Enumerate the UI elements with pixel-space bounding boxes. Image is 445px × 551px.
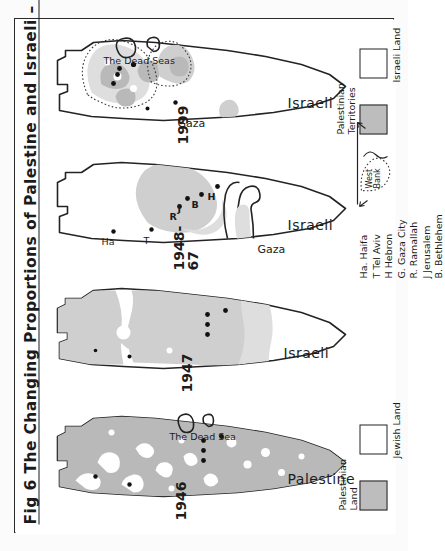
city-key-entry-hebron: H Hebron	[382, 214, 395, 278]
legend-label-palestinian-land: Palestinian Land	[337, 440, 358, 510]
dead-sea-label-1999: The Dead Seas	[103, 54, 174, 65]
city-key-entry-ramallah: R. Ramallah	[407, 214, 420, 278]
legend-label-jewish-land: Jewish Land	[391, 388, 402, 458]
city-key-entry-jerusalem: J Jerusalem	[420, 214, 433, 278]
panel-1999: 1999	[51, 28, 351, 146]
west-bank-inset-drawing	[351, 116, 395, 208]
city-key: Ha. Haifa T Tel Aviv H Hebron G. Gaza Ci…	[357, 214, 445, 278]
gaza-label-1948-67: Gaza	[257, 242, 285, 255]
west-bank-inset: West Bank	[351, 116, 395, 208]
city-marker-haifa: Ha	[101, 235, 114, 246]
panel-1947-year: 1947	[179, 353, 193, 392]
gaza-shade-1948-67	[234, 204, 251, 240]
legend-label-israeli-land: Israeli Land	[391, 2, 402, 82]
gaza-label-1999: Gaza	[177, 116, 205, 129]
panel-1946-year: 1946	[173, 481, 187, 520]
city-marker-bethlehem: B	[191, 198, 198, 209]
city-key-entry-haifa: Ha. Haifa	[357, 214, 370, 278]
map-1946	[51, 402, 351, 522]
city-marker-ramallah: R	[169, 210, 176, 221]
panel-1948-67: 1948- 67	[51, 150, 351, 268]
map-1947	[51, 276, 351, 394]
panel-1947: 1947	[51, 276, 351, 394]
country-label-1947: Israeli	[283, 344, 329, 360]
city-key-entry-telaviv: T Tel Aviv	[370, 214, 383, 278]
city-key-entry-gazacity: G. Gaza City	[395, 214, 408, 278]
panel-1948-67-year: 1948- 67	[171, 225, 200, 270]
legend-1946: Palestinian Land Jewish Land	[357, 400, 391, 510]
city-marker-hebron: H	[207, 190, 215, 201]
figure-title-text: Fig 6 The Changing Proportions of Palest…	[21, 0, 39, 524]
west-bank-inset-label: West Bank	[365, 168, 382, 188]
figure-canvas: Fig 6 The Changing Proportions of Palest…	[15, 19, 395, 534]
country-label-1999: Israeli	[287, 94, 333, 110]
figure-title: Fig 6 The Changing Proportions of Palest…	[21, 24, 39, 524]
city-key-entry-bethlehem: B. Bethlehem	[432, 214, 445, 278]
city-marker-jerusalem: J	[177, 202, 181, 213]
palestinian-area-1947	[57, 290, 272, 366]
dead-sea-label-1946: The Dead Sea	[169, 430, 235, 441]
legend-swatch-israeli-land	[359, 48, 387, 78]
figure-frame: Fig 6 The Changing Proportions of Palest…	[14, 18, 394, 533]
legend-swatch-jewish-land	[359, 424, 387, 454]
city-marker-telaviv: T	[143, 234, 149, 245]
legend-swatch-palestinian-land	[359, 480, 387, 510]
panel-1946: 1946	[51, 402, 351, 522]
map-1948-67	[51, 150, 351, 268]
country-label-1948-67: Israeli	[287, 216, 333, 232]
